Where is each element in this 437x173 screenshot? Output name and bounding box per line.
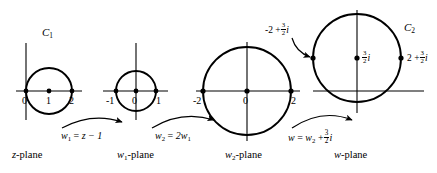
w-plane-curve-label: C2: [404, 22, 415, 35]
transformation-equation-2: w2 = 2w1: [155, 131, 191, 143]
plane-label-w1-main: w: [117, 149, 124, 160]
plane-label-w-tail: -plane: [341, 149, 367, 160]
t2-lhs: w: [155, 130, 162, 141]
w-plane-right-point-fraction: 32: [420, 50, 425, 65]
w-plane-right-point-imag: i: [425, 53, 428, 63]
w2-plane-point-minus2: [200, 88, 205, 93]
transformation-equation-3: w = w2 +32i: [288, 130, 332, 145]
t2-rhs: 2w: [176, 130, 188, 141]
w-plane-center-frac-den: 2: [362, 57, 367, 65]
z-plane-curve-label-sub: 1: [49, 31, 53, 40]
transformation-equation-1: w1 = z − 1: [61, 131, 102, 143]
w1-plane-point-0-center: [134, 89, 139, 94]
w1-plane-tick-minus1: -1: [106, 96, 114, 106]
plane-label-w1: w1-plane: [117, 150, 154, 162]
t3-lhs: w: [288, 132, 295, 143]
z-plane-curve-label: C1: [42, 27, 53, 40]
w2-plane-tick-0: 0: [243, 96, 248, 106]
plane-label-w2: w2-plane: [225, 150, 262, 162]
w-plane-right-point-frac-num: 3: [420, 50, 425, 57]
w-plane-right-point-frac-den: 2: [420, 57, 425, 65]
w-plane-point-center-3over2i: [354, 55, 359, 60]
panel-w2-plane: [196, 42, 300, 141]
t1-eq: =: [74, 130, 80, 141]
t2-lhs-sub: 2: [162, 135, 165, 142]
w-plane-curve-label-sub: 2: [411, 26, 415, 35]
t2-rhs-sub: 1: [187, 135, 190, 142]
arrow-transformation-3: [292, 116, 352, 129]
z-plane-point-2: [70, 89, 75, 94]
figure-vector-canvas: [0, 0, 437, 173]
w2-plane-tick-minus2: -2: [193, 96, 201, 106]
w1-plane-tick-1: 1: [156, 96, 161, 106]
plane-label-w2-tail: -plane: [236, 149, 262, 160]
w-plane-point-2-plus-3over2i: [398, 55, 403, 60]
plane-label-w2-main: w: [225, 149, 232, 160]
w-plane-point-minus2-plus-3over2i: [310, 55, 315, 60]
w1-plane-point-1: [154, 89, 159, 94]
plane-label-z-tail: -plane: [16, 149, 42, 160]
t3-rhs-tail: +: [318, 132, 324, 143]
w-plane-left-point-imag: i: [286, 25, 289, 35]
t2-eq: =: [168, 130, 174, 141]
t1-lhs-sub: 1: [68, 135, 71, 142]
w-plane-center-point-label: 32i: [362, 50, 370, 65]
w1-plane-point-minus1: [114, 89, 119, 94]
panel-w1-plane: [103, 43, 168, 120]
panel-z-plane: [16, 43, 82, 120]
w-plane-center-imag: i: [368, 53, 371, 63]
t3-eq: =: [297, 132, 303, 143]
t3-rhs: w: [305, 132, 312, 143]
t3-rhs-sub: 2: [312, 137, 315, 144]
w1-plane-tick-0: 0: [132, 96, 137, 106]
w-plane-left-point-real: -2 +: [265, 25, 281, 35]
w2-plane-point-2: [288, 88, 293, 93]
z-plane-tick-2: 2: [69, 96, 74, 106]
w-plane-center-frac-num: 3: [362, 50, 367, 57]
plane-label-w1-tail: -plane: [128, 149, 154, 160]
leader-arrow-left-point-label: [292, 38, 310, 57]
t3-imag: i: [329, 132, 332, 143]
w-plane-right-point-real: 2 +: [407, 53, 419, 63]
w2-plane-point-0-center: [244, 88, 249, 93]
w-plane-center-fraction: 32: [362, 50, 367, 65]
t1-lhs: w: [61, 130, 68, 141]
plane-label-z: z-plane: [12, 150, 42, 161]
arrow-transformation-2: [152, 116, 214, 128]
plane-label-w: w-plane: [334, 150, 367, 161]
t1-rhs: z − 1: [82, 130, 103, 141]
w-plane-right-point-label: 2 +32i: [407, 50, 428, 65]
arrow-transformation-1: [62, 118, 122, 128]
z-plane-tick-0: 0: [22, 96, 27, 106]
z-plane-point-1-center: [47, 89, 52, 94]
z-plane-tick-1: 1: [46, 96, 51, 106]
z-plane-point-0: [24, 89, 29, 94]
w2-plane-tick-2: 2: [291, 96, 296, 106]
w-plane-left-point-label: -2 +32i: [265, 22, 289, 37]
complex-plane-transformation-figure: C1 0 1 2 z-plane -1 0 1 w1-plane -2 0 2 …: [0, 0, 437, 173]
